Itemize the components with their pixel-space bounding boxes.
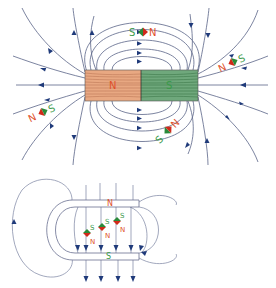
horseshoe-compass-1: S N — [83, 224, 95, 246]
arrow-icon — [137, 41, 142, 45]
compass-bottom: S N — [153, 117, 182, 146]
arrow-icon — [114, 245, 119, 251]
compass-label-n: N — [26, 111, 37, 124]
arrow-icon — [44, 98, 50, 102]
compass-label-n: N — [90, 238, 95, 246]
north-pole-label: N — [109, 80, 116, 91]
arrow-icon — [229, 54, 234, 58]
arrow-icon — [137, 146, 142, 150]
arrow-icon — [99, 276, 104, 282]
arrow-icon — [72, 135, 77, 140]
arrow-icon — [137, 59, 142, 63]
compass-label-s: S — [153, 133, 165, 145]
arrow-icon — [116, 276, 121, 282]
bar-magnet: N S — [85, 70, 198, 101]
arrow-icon — [137, 108, 142, 112]
compass-needle-icon — [138, 28, 143, 37]
compass-top: S N — [129, 27, 156, 38]
compass-label-s: S — [236, 52, 246, 65]
arrow-icon — [189, 23, 194, 28]
arrow-icon — [40, 68, 46, 72]
compass-label-s: S — [120, 212, 125, 220]
south-pole-label: S — [166, 80, 172, 91]
arrow-icon — [185, 142, 190, 148]
arrow-icon — [205, 138, 210, 143]
horseshoe-north-label: N — [107, 199, 113, 208]
arrow-icon — [84, 245, 89, 251]
horseshoe-compass-2: S N — [98, 218, 110, 240]
arrow-icon — [90, 30, 95, 35]
arrow-icon — [72, 30, 77, 35]
compass-label-s: S — [46, 102, 56, 115]
arrow-icon — [225, 115, 230, 120]
horseshoe-south-label: S — [106, 252, 111, 261]
magnetic-field-diagram: N S S N N S N S S N — [0, 0, 276, 288]
arrow-icon — [84, 276, 89, 282]
arrow-icon — [131, 276, 136, 282]
horseshoe-compass-3: S N — [113, 212, 125, 234]
arrow-icon — [38, 83, 44, 88]
compass-label-s: S — [90, 224, 95, 232]
arrow-icon — [240, 83, 246, 88]
compass-label-s: S — [129, 27, 135, 38]
arrow-icon — [137, 126, 142, 130]
diagram-canvas: N S S N N S N S S N — [0, 0, 276, 288]
arrow-icon — [206, 33, 211, 38]
arrow-icon — [239, 102, 244, 106]
compass-label-n: N — [105, 232, 110, 240]
arrow-icon — [137, 116, 142, 120]
arrow-icon — [99, 245, 104, 251]
compass-label-n: N — [149, 27, 156, 38]
compass-label-n: N — [216, 61, 227, 74]
compass-label-s: S — [105, 218, 110, 226]
arrow-icon — [129, 245, 134, 251]
arrow-icon — [137, 51, 142, 55]
compass-label-n: N — [120, 226, 125, 234]
arrow-icon — [241, 67, 247, 71]
arrow-icon — [50, 123, 54, 129]
